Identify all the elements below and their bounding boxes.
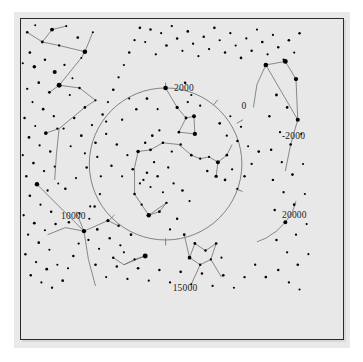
star-point	[137, 267, 140, 270]
star-point	[247, 145, 249, 147]
star-point	[128, 51, 130, 53]
star-point	[235, 44, 237, 46]
star-point	[192, 43, 194, 45]
star-point	[143, 253, 148, 258]
star-point	[128, 97, 130, 99]
constellation-line	[84, 221, 108, 232]
star-point	[165, 202, 167, 204]
constellation-line	[108, 221, 119, 226]
star-point	[91, 124, 93, 126]
star-point	[293, 52, 295, 54]
star-point	[293, 203, 296, 206]
star-point	[61, 279, 64, 282]
constellation-line	[149, 203, 167, 215]
star-point	[283, 220, 287, 224]
constellation-line	[216, 162, 218, 176]
star-point	[123, 64, 125, 66]
star-point	[215, 242, 218, 245]
star-point	[201, 272, 203, 274]
star-point	[34, 125, 36, 127]
star-point	[93, 205, 95, 207]
star-point	[254, 264, 256, 266]
star-points	[22, 24, 310, 290]
constellation-line	[85, 32, 93, 51]
star-point	[106, 219, 109, 222]
star-point	[302, 163, 304, 165]
star-point	[131, 168, 134, 171]
constellation-line	[113, 258, 124, 265]
star-point	[94, 263, 97, 266]
star-point	[199, 264, 201, 266]
star-point	[193, 242, 196, 245]
star-point	[119, 244, 121, 246]
circle-tick	[237, 120, 243, 124]
star-point	[126, 154, 128, 156]
star-point	[264, 63, 269, 68]
star-point	[288, 281, 290, 283]
star-point	[304, 193, 306, 195]
star-point	[54, 166, 56, 168]
star-point	[286, 106, 289, 109]
star-point	[140, 203, 142, 205]
star-point	[193, 132, 197, 136]
star-point	[58, 44, 60, 46]
star-point	[32, 162, 35, 165]
star-point	[229, 32, 231, 34]
constellation-line	[190, 258, 201, 265]
star-point	[146, 97, 149, 100]
contour-label: 2000	[174, 83, 194, 93]
star-point	[26, 31, 28, 33]
star-point	[136, 150, 140, 154]
star-point	[210, 258, 212, 260]
star-point	[22, 62, 24, 64]
star-point	[185, 117, 188, 120]
constellation-line	[191, 265, 200, 284]
star-point	[139, 182, 141, 184]
star-point	[56, 264, 58, 266]
star-point	[216, 160, 220, 164]
star-point	[94, 141, 97, 144]
constellation-line	[179, 145, 191, 156]
constellation-line	[85, 100, 96, 107]
star-point	[116, 265, 118, 267]
star-point	[121, 175, 123, 177]
star-point	[243, 175, 245, 177]
star-point	[51, 287, 53, 289]
constellation-line	[200, 259, 211, 264]
star-point	[41, 41, 44, 44]
star-point	[211, 285, 213, 287]
star-point	[49, 150, 51, 152]
star-point	[44, 229, 46, 231]
star-point	[126, 278, 128, 280]
constellation-line	[191, 155, 200, 159]
star-point	[151, 134, 154, 137]
constellation-line	[59, 85, 79, 88]
star-point	[181, 50, 183, 52]
constellation-line	[194, 116, 195, 134]
constellation-line	[37, 184, 84, 231]
star-point	[76, 36, 79, 39]
star-point	[117, 225, 119, 227]
star-point	[116, 143, 118, 145]
star-point	[96, 228, 99, 231]
star-point	[84, 152, 86, 154]
star-point	[169, 281, 171, 283]
star-point	[88, 218, 90, 220]
star-point	[158, 210, 161, 213]
star-point	[192, 114, 196, 118]
star-point	[163, 86, 168, 91]
star-point	[171, 150, 173, 152]
star-point	[277, 46, 279, 48]
sky-map-plot: 20000-2000200001500010000	[20, 18, 344, 340]
constellation-line	[179, 132, 195, 134]
star-point	[133, 39, 135, 41]
star-point	[68, 221, 70, 223]
star-point	[100, 175, 102, 177]
star-point	[53, 115, 55, 117]
star-point	[257, 150, 260, 153]
star-point	[208, 156, 210, 158]
star-point	[35, 182, 39, 186]
star-point	[206, 170, 208, 172]
constellation-line	[296, 79, 298, 120]
star-point	[176, 218, 178, 220]
